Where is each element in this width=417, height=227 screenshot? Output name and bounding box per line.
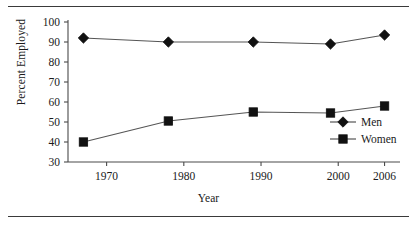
data-point-men	[78, 33, 88, 43]
y-tick-label: 100	[43, 16, 61, 28]
y-tick-label: 90	[49, 36, 61, 48]
legend-marker-women	[339, 135, 347, 143]
data-point-women	[164, 117, 172, 125]
x-tick-label: 1980	[172, 170, 195, 182]
data-point-women	[326, 109, 334, 117]
y-tick-label: 30	[49, 156, 61, 168]
series-line-men	[83, 35, 384, 44]
y-tick-label: 80	[49, 56, 61, 68]
data-point-women	[79, 138, 87, 146]
data-point-men	[248, 37, 258, 47]
data-point-men	[379, 30, 389, 40]
x-axis-title: Year	[0, 192, 417, 204]
data-point-women	[249, 108, 257, 116]
figure-bottom-rule	[8, 216, 409, 217]
line-chart: 3040506070809010019701980199020002006Men…	[0, 10, 417, 192]
legend-label-men: Men	[361, 116, 382, 128]
data-point-men	[325, 39, 335, 49]
data-point-women	[380, 102, 388, 110]
x-tick-label: 1990	[250, 170, 273, 182]
y-tick-label: 60	[49, 96, 61, 108]
x-tick-label: 2006	[373, 170, 396, 182]
legend-marker-men	[338, 117, 348, 127]
data-point-men	[163, 37, 173, 47]
figure-top-rule	[8, 6, 409, 7]
y-tick-label: 50	[49, 116, 61, 128]
y-tick-label: 70	[49, 76, 61, 88]
legend-label-women: Women	[361, 133, 397, 145]
x-tick-label: 2000	[327, 170, 350, 182]
figure-container: Percent Employed Year 304050607080901001…	[0, 0, 417, 227]
y-tick-label: 40	[49, 136, 61, 148]
x-tick-label: 1970	[95, 170, 118, 182]
